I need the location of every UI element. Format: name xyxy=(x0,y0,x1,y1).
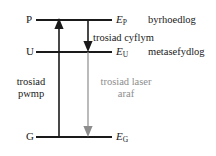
pump-transition-label-line2: pwmp xyxy=(8,88,54,100)
pump-transition-label-line1: trosiad xyxy=(8,76,54,88)
fast-transition-label-line1: trosiad cyflym xyxy=(93,32,154,44)
laser-transition-label-line1: trosiad laser xyxy=(93,76,159,88)
laser-transition-label: trosiad laser araf xyxy=(93,76,159,100)
pump-transition-label: trosiad pwmp xyxy=(8,76,54,100)
laser-transition-label-line2: araf xyxy=(93,88,159,100)
fast-transition-label: trosiad cyflym xyxy=(93,32,154,44)
energy-level-diagram: P EP byrhoedlog U EU metasefydlog G EG t… xyxy=(0,0,216,156)
